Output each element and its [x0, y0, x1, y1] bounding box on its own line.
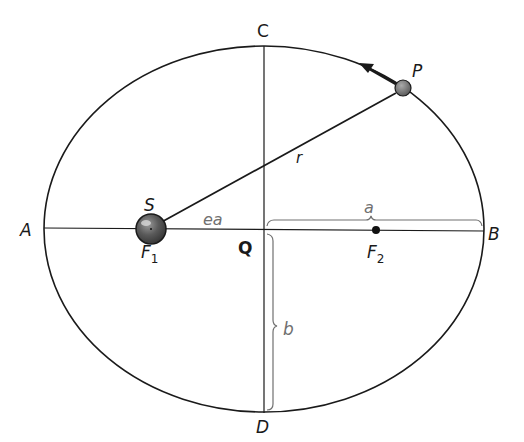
label-r: r	[296, 149, 303, 167]
label-C: C	[257, 21, 269, 41]
orbit-diagram: A B C D Q P S F1 F2 r ea a b	[0, 0, 524, 442]
label-ea: ea	[203, 210, 223, 229]
label-D: D	[256, 417, 269, 437]
bracket-b	[267, 234, 277, 410]
label-Q: Q	[238, 238, 252, 258]
label-b: b	[283, 319, 294, 339]
sun-highlight	[141, 220, 151, 226]
focus2-dot	[372, 226, 380, 234]
label-P: P	[412, 61, 423, 81]
label-A: A	[19, 220, 32, 240]
bracket-a	[267, 216, 482, 226]
label-S: S	[144, 195, 155, 215]
velocity-arrow	[368, 68, 396, 84]
radius-line	[158, 93, 396, 224]
label-F2: F2	[367, 242, 384, 266]
label-F1: F1	[141, 242, 158, 266]
label-B: B	[488, 224, 500, 244]
planet-icon	[395, 80, 411, 96]
sun-center-dot	[150, 228, 152, 230]
label-a: a	[364, 198, 374, 217]
